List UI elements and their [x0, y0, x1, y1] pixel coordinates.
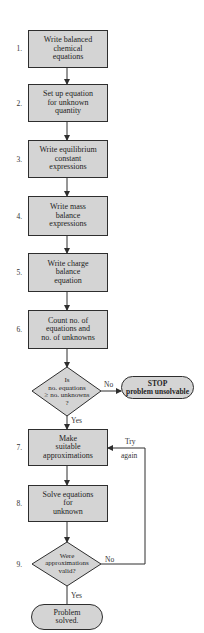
step-box-5: Write charge balance equation — [28, 253, 108, 292]
step-text-3: Write equilibrium constant expressions — [39, 146, 96, 172]
step-number-4: 4. — [10, 212, 22, 221]
step-text-5: Write charge balance equation — [47, 260, 88, 286]
loop-label-again: again — [121, 451, 137, 460]
step-box-2: Set up equation for unknown quantity — [28, 84, 108, 122]
step-number-3: 3. — [10, 155, 22, 164]
step-number-1: 1. — [10, 44, 22, 53]
step-box-1: Write balanced chemical equations — [28, 30, 108, 68]
decision-1-no-label: No — [104, 380, 113, 389]
step-text-2: Set up equation for unknown quantity — [43, 90, 93, 116]
step-box-7: Make suitable approximations — [28, 429, 108, 466]
step-number-9: 9. — [10, 560, 22, 569]
decision-2-text: Were approximations valid? — [32, 546, 102, 582]
decision-1-yes-label: Yes — [71, 416, 82, 425]
decision-2-question: Were approximations valid? — [45, 553, 89, 576]
decision-2-yes-label: Yes — [71, 591, 82, 600]
end-terminal: Problem solved. — [31, 604, 103, 630]
step-box-3: Write equilibrium constant expressions — [28, 140, 108, 178]
decision-1-question: Is no. equations ≥ no. unknowns ? — [45, 377, 90, 407]
decision-2-no-label: No — [105, 555, 114, 564]
stop-terminal: STOP problem unsolvable — [121, 376, 194, 399]
step-number-6: 6. — [10, 325, 22, 334]
step-text-6: Count no. of equations and no. of unknow… — [41, 317, 95, 343]
loop-label-try: Try — [125, 437, 136, 446]
step-text-4: Write mass balance expressions — [49, 203, 86, 229]
stop-subtitle: problem unsolvable — [126, 388, 189, 396]
step-number-8: 8. — [10, 499, 22, 508]
step-box-6: Count no. of equations and no. of unknow… — [28, 310, 108, 349]
step-number-5: 5. — [10, 268, 22, 277]
decision-1-text: Is no. equations ≥ no. unknowns ? — [32, 370, 102, 414]
step-text-7: Make suitable approximations — [43, 435, 93, 461]
end-text: Problem solved. — [53, 609, 80, 626]
step-box-8: Solve equations for unknown — [28, 485, 108, 522]
step-number-7: 7. — [10, 443, 22, 452]
step-number-2: 2. — [10, 99, 22, 108]
step-box-4: Write mass balance expressions — [28, 196, 108, 236]
step-text-1: Write balanced chemical equations — [44, 36, 92, 62]
step-text-8: Solve equations for unknown — [43, 491, 94, 517]
